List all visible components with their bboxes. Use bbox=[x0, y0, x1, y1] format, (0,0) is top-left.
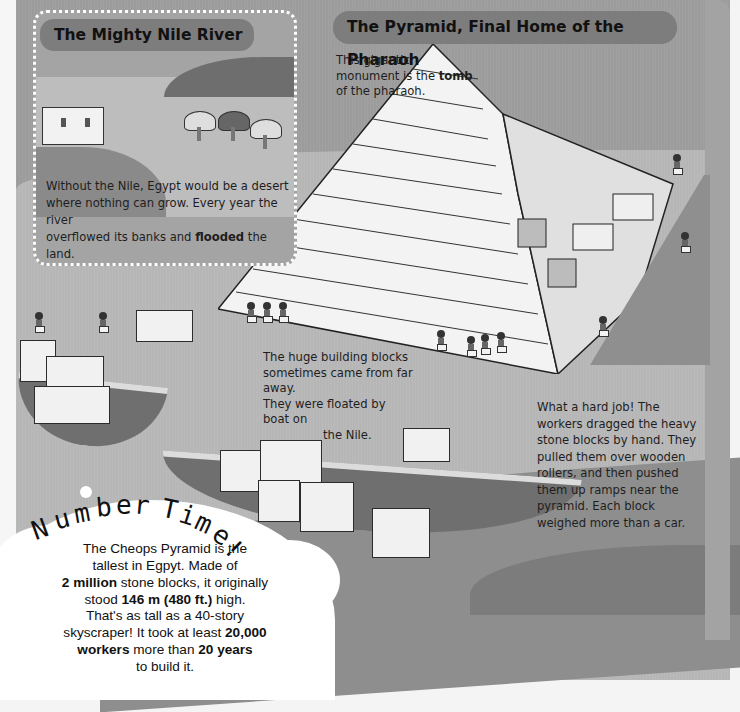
worker-figure bbox=[98, 312, 108, 334]
palm-tree-icon bbox=[250, 119, 280, 153]
nile-section-body: Without the Nile, Egypt would be a deser… bbox=[46, 178, 290, 266]
palm-tree-icon bbox=[218, 111, 248, 145]
worker-figure bbox=[680, 232, 690, 254]
worker-figure bbox=[246, 302, 256, 324]
stone-block-on-sledge bbox=[136, 310, 193, 342]
cargo-block bbox=[34, 386, 110, 424]
cargo-block bbox=[300, 482, 354, 532]
worker-figure bbox=[34, 312, 44, 334]
worker-figure bbox=[262, 302, 272, 324]
nile-flood-illustration bbox=[36, 49, 294, 161]
pyramid-intro-text: This gigantic monument is the tomb of th… bbox=[336, 53, 476, 100]
worker-figure bbox=[672, 154, 682, 176]
worker-figure bbox=[480, 334, 490, 356]
hard-job-caption: What a hard job! The workers dragged the… bbox=[537, 399, 707, 531]
worker-figure bbox=[466, 336, 476, 358]
skyscraper-fact-paragraph: That's as tall as a 40-story skyscraper!… bbox=[0, 607, 330, 675]
worker-figure bbox=[496, 332, 506, 354]
cargo-block bbox=[372, 508, 430, 558]
cheops-fact-paragraph: The Cheops Pyramid is the tallest in Egp… bbox=[0, 540, 330, 608]
palm-tree-icon bbox=[184, 111, 214, 145]
building-blocks-caption: The huge building blocks sometimes came … bbox=[263, 350, 413, 443]
house-illustration bbox=[42, 107, 104, 145]
nile-inset-box: The Mighty Nile River Without the Nile, … bbox=[33, 10, 297, 266]
nile-section-title: The Mighty Nile River bbox=[40, 19, 254, 51]
overseer-figure bbox=[436, 330, 446, 352]
worker-figure bbox=[598, 316, 608, 338]
pyramid-section-title: The Pyramid, Final Home of the Pharaoh bbox=[333, 11, 677, 44]
worker-figure bbox=[278, 302, 288, 324]
